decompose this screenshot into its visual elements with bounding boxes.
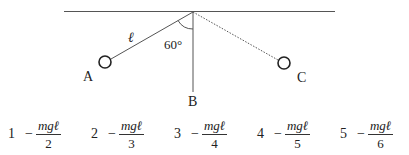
choice-5[interactable]: 5 − mgℓ 6 [340,118,393,150]
denominator: 2 [45,135,52,150]
label-C: C [297,71,306,85]
numerator: mgℓ [119,119,144,135]
minus-sign: − [25,126,33,142]
denominator: 6 [377,135,384,150]
angle-arc [178,21,193,30]
choice-number: 2 [91,126,98,142]
denominator: 4 [211,135,218,150]
numerator: mgℓ [36,119,61,135]
bob-A [99,56,111,68]
minus-sign: − [191,126,199,142]
choice-1[interactable]: 1 − mgℓ 2 [8,118,61,150]
fraction: mgℓ 3 [119,119,144,150]
answer-choices: 1 − mgℓ 2 2 − mgℓ 3 3 − mgℓ 4 4 − mgℓ 5 … [0,118,409,150]
fraction: mgℓ 6 [368,119,393,150]
choice-2[interactable]: 2 − mgℓ 3 [91,118,144,150]
string-to-C [193,12,278,60]
fraction: mgℓ 5 [285,119,310,150]
minus-sign: − [274,126,282,142]
choice-4[interactable]: 4 − mgℓ 5 [257,118,310,150]
denominator: 5 [294,135,301,150]
minus-sign: − [357,126,365,142]
numerator: mgℓ [285,119,310,135]
choice-3[interactable]: 3 − mgℓ 4 [174,118,227,150]
label-B: B [188,95,197,109]
choice-number: 4 [257,126,264,142]
choice-number: 5 [340,126,347,142]
minus-sign: − [108,126,116,142]
fraction: mgℓ 2 [36,119,61,150]
denominator: 3 [128,135,135,150]
label-length: ℓ [128,31,134,45]
label-angle: 60° [164,38,182,51]
label-A: A [83,70,93,84]
numerator: mgℓ [202,119,227,135]
choice-number: 3 [174,126,181,142]
choice-number: 1 [8,126,15,142]
bob-C [278,57,290,69]
fraction: mgℓ 4 [202,119,227,150]
numerator: mgℓ [368,119,393,135]
